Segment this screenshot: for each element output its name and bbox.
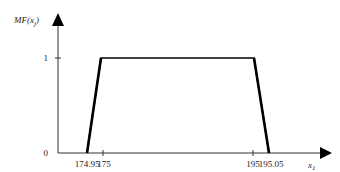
trapezoid-mf-line xyxy=(87,58,269,153)
y-tick-label-0: 0 xyxy=(44,148,49,158)
x-tick-label-174.95: 174.95 xyxy=(75,159,100,169)
x-axis-label: x1 xyxy=(307,160,316,172)
falling-edge xyxy=(254,58,269,153)
rising-edge xyxy=(87,58,101,153)
y-tick-label-1: 1 xyxy=(44,53,49,63)
membership-function-chart: 1 0 174.95 175 195 195.05 MF(xj) x1 xyxy=(0,0,340,172)
x-tick-label-175: 175 xyxy=(97,159,111,169)
y-axis-arrow-icon xyxy=(52,13,64,26)
y-axis-label: MF(xj) xyxy=(13,15,39,28)
x-tick-label-195.05: 195.05 xyxy=(259,159,284,169)
x-axis-arrow-icon xyxy=(320,147,332,159)
